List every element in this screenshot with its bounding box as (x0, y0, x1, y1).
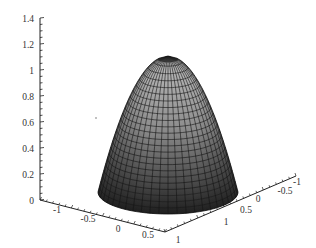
z-axis-tick-labels: 1.41.210.80.60.40.20 (22, 14, 34, 206)
y-tick-label: 1 (224, 217, 229, 227)
z-tick-label: 0.6 (22, 118, 34, 128)
z-tick-label: 0 (29, 196, 34, 206)
y-tick-label: 0 (256, 194, 261, 204)
y-tick-label: -1 (293, 177, 301, 187)
z-tick-label: 0.2 (22, 170, 34, 180)
artifact-dot (95, 117, 96, 118)
paraboloid-surface (98, 56, 238, 215)
x-tick-label: -0.5 (80, 214, 95, 224)
z-axis-ticks (40, 18, 44, 201)
z-axis: 1.41.210.80.60.40.20 (22, 14, 44, 206)
y-tick-label: 0.5 (240, 205, 252, 215)
x-tick-label: 1 (176, 235, 181, 245)
x-tick-label: 0.5 (142, 230, 154, 240)
z-tick-label: 1.2 (22, 40, 34, 50)
x-tick-label: -1 (53, 205, 61, 215)
z-tick-label: 1 (29, 66, 34, 76)
z-tick-label: 0.4 (22, 144, 34, 154)
surface-plot: 1.41.210.80.60.40.20 -1-0.500.51 10.50-0… (0, 0, 316, 248)
z-tick-label: 0.8 (22, 92, 34, 102)
z-tick-label: 1.4 (22, 14, 34, 24)
y-tick-label: -0.5 (277, 186, 292, 196)
x-tick-label: 0 (116, 224, 121, 234)
